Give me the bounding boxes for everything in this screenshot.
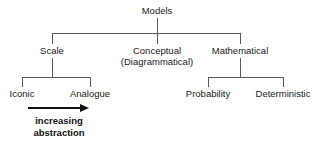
node-mathematical-label: Mathematical (212, 45, 269, 56)
node-analogue-label: Analogue (70, 88, 110, 99)
mathematical-stem (240, 58, 241, 77)
node-conceptual-sublabel: (Diagrammatical) (121, 56, 193, 67)
annotation-line-2: abstraction (26, 127, 92, 139)
annotation-text: increasing abstraction (26, 115, 92, 138)
arrow-head-icon (80, 104, 89, 112)
scale-stem (52, 58, 53, 77)
annotation-line-1: increasing (26, 115, 92, 127)
root-stem (157, 18, 158, 33)
level2-stem-mathematical (240, 33, 241, 44)
node-iconic: Iconic (10, 88, 35, 99)
node-models: Models (142, 5, 173, 16)
node-scale-label: Scale (40, 45, 64, 56)
node-analogue: Analogue (70, 88, 110, 99)
mathematical-stem-probability (208, 77, 209, 87)
mathematical-bus (208, 77, 284, 78)
node-probability-label: Probability (186, 88, 230, 99)
arrow-right-icon (28, 107, 81, 109)
level2-stem-conceptual (157, 33, 158, 44)
level2-bus (52, 33, 241, 34)
node-deterministic: Deterministic (256, 88, 311, 99)
node-iconic-label: Iconic (10, 88, 35, 99)
scale-bus (22, 77, 91, 78)
node-mathematical: Mathematical (212, 45, 269, 56)
scale-stem-analogue (90, 77, 91, 87)
node-conceptual: Conceptual (Diagrammatical) (121, 45, 193, 67)
model-taxonomy-diagram: Models Scale Conceptual (Diagrammatical)… (0, 0, 322, 141)
mathematical-stem-deterministic (283, 77, 284, 87)
node-probability: Probability (186, 88, 230, 99)
node-models-label: Models (142, 5, 173, 16)
node-scale: Scale (40, 45, 64, 56)
level2-stem-scale (52, 33, 53, 44)
node-deterministic-label: Deterministic (256, 88, 311, 99)
node-conceptual-label: Conceptual (133, 45, 181, 56)
scale-stem-iconic (22, 77, 23, 87)
